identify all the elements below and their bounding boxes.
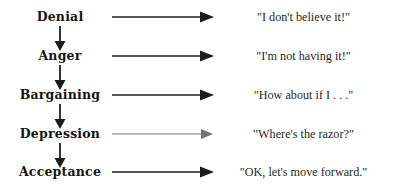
grief-stages-diagram: Denial "I don't believe it!" Anger "I'm … [0, 0, 394, 188]
quote-denial: "I don't believe it!" [213, 4, 394, 30]
right-arrow-icon [112, 121, 214, 147]
diagram-row: Anger "I'm not having it!" [0, 43, 394, 69]
diagram-row: Bargaining "How about if I . . ." [0, 82, 394, 108]
quote-depression: "Where's the razor?" [213, 121, 394, 147]
stage-label-denial: Denial [0, 4, 120, 30]
quote-anger: "I'm not having it!" [213, 43, 394, 69]
stage-label-depression: Depression [0, 121, 120, 147]
quote-bargaining: "How about if I . . ." [213, 82, 394, 108]
right-arrow-icon [112, 43, 214, 69]
stage-label-bargaining: Bargaining [0, 82, 120, 108]
stage-label-anger: Anger [0, 43, 120, 69]
right-arrow-icon [112, 82, 214, 108]
quote-acceptance: "OK, let's move forward." [213, 159, 394, 185]
stage-label-acceptance: Acceptance [0, 159, 120, 185]
diagram-row: Depression "Where's the razor?" [0, 121, 394, 147]
diagram-row: Acceptance "OK, let's move forward." [0, 159, 394, 185]
right-arrow-icon [112, 159, 214, 185]
right-arrow-icon [112, 4, 214, 30]
diagram-row: Denial "I don't believe it!" [0, 4, 394, 30]
